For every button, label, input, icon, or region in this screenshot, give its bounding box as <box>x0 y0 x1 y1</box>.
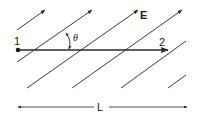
label-point-2: 2 <box>159 36 165 48</box>
field-line <box>17 10 92 62</box>
field-line-e <box>27 10 138 88</box>
field-diagram: 1 2 E θ L <box>0 0 201 125</box>
field-line <box>17 10 45 30</box>
label-length-l: L <box>97 101 103 113</box>
field-lines <box>17 10 186 88</box>
label-field-e: E <box>140 9 147 21</box>
field-line <box>168 75 186 88</box>
field-line <box>72 10 182 88</box>
point-1-dot <box>16 48 21 53</box>
field-line <box>121 41 186 88</box>
label-point-1: 1 <box>14 35 20 47</box>
angle-arc <box>66 33 70 49</box>
label-angle-theta: θ <box>73 32 78 43</box>
